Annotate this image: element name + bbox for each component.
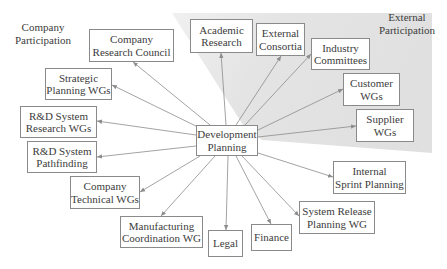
edge-to-legal	[226, 156, 228, 230]
development-planning-node[interactable]: Development Planning	[196, 125, 258, 156]
rnd-system-pathfinding-node[interactable]: R&D SystemPathfinding	[27, 141, 97, 173]
internal-sprint-planning-node[interactable]: InternalSprint Planning	[333, 161, 406, 194]
edge-to-manufacturing-coordination-wg	[161, 156, 215, 216]
edge-to-rnd-system-pathfinding	[97, 146, 196, 157]
finance-node[interactable]: Finance	[251, 224, 292, 251]
system-release-planning-wg-node[interactable]: System ReleasePlanning WG	[299, 201, 375, 234]
customer-wgs-node[interactable]: CustomerWGs	[343, 73, 400, 106]
edge-to-rnd-system-research-wgs	[97, 121, 196, 135]
participation-diagram: Company Participation External Participa…	[0, 0, 447, 269]
edge-to-system-release-planning-wg	[242, 156, 299, 216]
external-participation-label: External Participation	[378, 11, 436, 37]
company-technical-wgs-node[interactable]: CompanyTechnical WGs	[70, 176, 140, 209]
company-research-council-node[interactable]: CompanyResearch Council	[89, 29, 174, 62]
edge-to-internal-sprint-planning	[258, 153, 333, 177]
legal-node[interactable]: Legal	[208, 230, 243, 257]
edge-to-company-research-council	[133, 62, 210, 125]
edge-to-company-technical-wgs	[140, 156, 200, 192]
edge-to-finance	[236, 156, 271, 224]
external-consortia-node[interactable]: ExternalConsortia	[256, 23, 305, 56]
company-participation-label: Company Participation	[12, 21, 74, 47]
supplier-wgs-node[interactable]: SupplierWGs	[356, 109, 414, 142]
academic-research-node[interactable]: AcademicResearch	[190, 19, 253, 53]
rnd-system-research-wgs-node[interactable]: R&D SystemResearch WGs	[20, 106, 97, 138]
manufacturing-coordination-wg-node[interactable]: ManufacturingCoordination WG	[120, 216, 203, 248]
strategic-planning-wgs-node[interactable]: StrategicPlanning WGs	[45, 68, 112, 100]
industry-committees-node[interactable]: IndustryCommittees	[311, 38, 370, 70]
